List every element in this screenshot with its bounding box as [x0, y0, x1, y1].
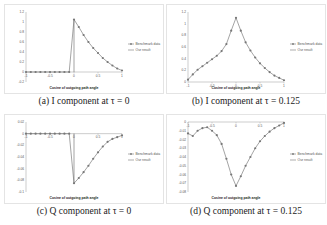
svg-text:0: 0: [73, 74, 75, 78]
svg-text:Benchmark data: Benchmark data: [136, 152, 161, 156]
svg-text:-0.5: -0.5: [47, 74, 53, 78]
svg-text:Benchmark data: Benchmark data: [298, 42, 323, 46]
svg-text:-0.03: -0.03: [179, 146, 186, 150]
svg-text:0.5: 0.5: [96, 74, 101, 78]
svg-text:-1: -1: [187, 124, 190, 128]
chart-panel-b: 1.210.80.60.40.20-1-0.500.51Cosine of ou…: [166, 4, 326, 94]
caption-b: (b) I component at τ = 0.125: [166, 96, 326, 106]
caption-a: (a) I component at τ = 0: [4, 96, 164, 106]
svg-text:Benchmark data: Benchmark data: [136, 42, 161, 46]
svg-text:-0.02: -0.02: [17, 143, 24, 147]
svg-text:-0.05: -0.05: [179, 164, 186, 168]
svg-text:Our result: Our result: [136, 48, 151, 52]
svg-text:-0.02: -0.02: [179, 138, 186, 142]
svg-text:0.2: 0.2: [20, 60, 25, 64]
svg-text:1: 1: [184, 22, 186, 26]
svg-text:-0.04: -0.04: [17, 155, 24, 159]
chart-a: 1.210.80.60.40.20-0.2-1-0.500.51Cosine o…: [4, 4, 164, 94]
chart-panel-c: 0.020-0.02-0.04-0.06-0.08-0.1-1-0.500.51…: [4, 114, 164, 204]
svg-text:Cosine of outgoing path angle: Cosine of outgoing path angle: [212, 86, 261, 90]
chart-d: 0-0.01-0.02-0.03-0.04-0.05-0.06-0.07-0.0…: [166, 114, 326, 204]
svg-text:-0.06: -0.06: [17, 167, 24, 171]
svg-text:-0.1: -0.1: [19, 190, 25, 194]
svg-text:0.8: 0.8: [182, 33, 187, 37]
svg-text:0.02: 0.02: [18, 120, 24, 124]
chart-panel-a: 1.210.80.60.40.20-0.2-1-0.500.51Cosine o…: [4, 4, 164, 94]
chart-b: 1.210.80.60.40.20-1-0.500.51Cosine of ou…: [166, 4, 326, 94]
svg-text:1: 1: [283, 84, 285, 88]
svg-text:0.4: 0.4: [20, 50, 25, 54]
caption-d: (d) Q component at τ = 0.125: [166, 206, 326, 216]
svg-text:0.6: 0.6: [20, 40, 25, 44]
svg-text:-1: -1: [25, 74, 28, 78]
svg-text:-1: -1: [187, 84, 190, 88]
svg-text:0.5: 0.5: [258, 124, 263, 128]
svg-text:0: 0: [235, 124, 237, 128]
svg-text:-0.04: -0.04: [179, 155, 186, 159]
svg-text:0.5: 0.5: [96, 135, 101, 139]
chart-panel-d: 0-0.01-0.02-0.03-0.04-0.05-0.06-0.07-0.0…: [166, 114, 326, 204]
svg-text:-1: -1: [25, 135, 28, 139]
svg-text:1.2: 1.2: [20, 10, 25, 14]
svg-text:Our result: Our result: [298, 158, 313, 162]
svg-text:-0.5: -0.5: [209, 124, 215, 128]
chart-c: 0.020-0.02-0.04-0.06-0.08-0.1-1-0.500.51…: [4, 114, 164, 204]
caption-c: (c) Q component at τ = 0: [4, 206, 164, 216]
svg-text:-0.06: -0.06: [179, 173, 186, 177]
svg-text:0.2: 0.2: [182, 68, 187, 72]
svg-text:0.4: 0.4: [182, 57, 187, 61]
svg-text:1: 1: [22, 20, 24, 24]
svg-text:Benchmark data: Benchmark data: [298, 152, 323, 156]
svg-text:-0.5: -0.5: [47, 135, 53, 139]
svg-text:-0.08: -0.08: [179, 190, 186, 194]
svg-text:Cosine of outgoing path angle: Cosine of outgoing path angle: [50, 86, 99, 90]
svg-text:0.8: 0.8: [20, 30, 25, 34]
svg-text:0.6: 0.6: [182, 45, 187, 49]
svg-text:Our result: Our result: [136, 158, 151, 162]
svg-text:-0.07: -0.07: [179, 181, 186, 185]
svg-text:Our result: Our result: [298, 48, 313, 52]
svg-text:-0.01: -0.01: [179, 129, 186, 133]
svg-text:Cosine of outgoing path angle: Cosine of outgoing path angle: [50, 196, 99, 200]
svg-text:Cosine of outgoing path angle: Cosine of outgoing path angle: [212, 196, 261, 200]
svg-text:1: 1: [283, 124, 285, 128]
svg-text:1.2: 1.2: [182, 10, 187, 14]
svg-text:-0.2: -0.2: [19, 80, 25, 84]
svg-text:-0.08: -0.08: [17, 178, 24, 182]
svg-text:1: 1: [121, 74, 123, 78]
